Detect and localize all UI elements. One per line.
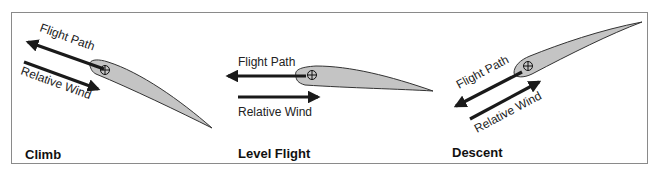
center-of-gravity-icon xyxy=(101,66,110,75)
flight-path-label-level: Flight Path xyxy=(238,55,295,69)
panel-climb: Flight Path Relative Wind Climb xyxy=(19,21,212,162)
relative-wind-label-level: Relative Wind xyxy=(238,105,312,119)
panel-title-climb: Climb xyxy=(25,147,61,162)
panel-level-flight: Flight Path Relative Wind Level Flight xyxy=(228,55,433,161)
flight-path-label-descent: Flight Path xyxy=(454,52,511,91)
panel-title-descent: Descent xyxy=(452,145,503,160)
center-of-gravity-icon xyxy=(524,62,533,71)
center-of-gravity-icon xyxy=(308,71,317,80)
flight-path-diagram: Flight Path Relative Wind Climb Flight P… xyxy=(0,0,660,175)
panel-descent: Flight Path Relative Wind Descent xyxy=(452,22,642,160)
panel-title-level-flight: Level Flight xyxy=(238,146,311,161)
airfoil-descent xyxy=(514,22,642,77)
airfoil-level xyxy=(296,66,433,91)
